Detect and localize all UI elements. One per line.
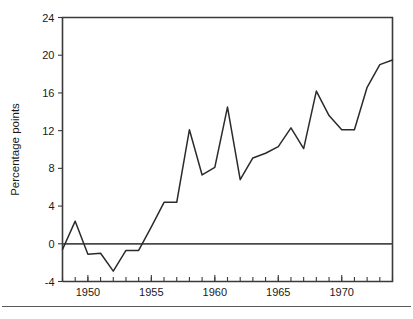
y-tick-label: -4 bbox=[45, 276, 55, 288]
x-tick-label: 1950 bbox=[76, 286, 100, 298]
x-tick-label: 1970 bbox=[329, 286, 353, 298]
line-chart: 24201612840-419501955196019651970Percent… bbox=[0, 0, 413, 319]
plot-frame bbox=[63, 18, 393, 282]
y-tick-label: 8 bbox=[48, 162, 54, 174]
x-tick-label: 1960 bbox=[203, 286, 227, 298]
y-tick-label: 16 bbox=[42, 87, 54, 99]
y-tick-label: 0 bbox=[48, 238, 54, 250]
data-series-line bbox=[63, 60, 393, 271]
y-tick-label: 24 bbox=[42, 12, 54, 24]
x-tick-label: 1955 bbox=[139, 286, 163, 298]
chart-figure: 24201612840-419501955196019651970Percent… bbox=[0, 0, 413, 319]
y-tick-label: 4 bbox=[48, 200, 54, 212]
y-tick-label: 12 bbox=[42, 125, 54, 137]
y-axis-title: Percentage points bbox=[9, 103, 21, 196]
x-tick-label: 1965 bbox=[266, 286, 290, 298]
y-tick-label: 20 bbox=[42, 49, 54, 61]
